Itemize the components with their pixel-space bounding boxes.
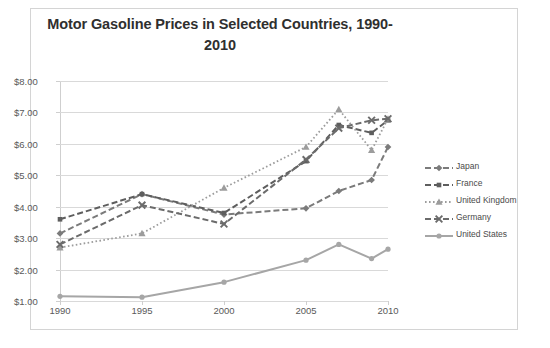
legend-item-france[interactable]: France <box>424 174 516 191</box>
x-tick-label: 2010 <box>377 305 398 316</box>
legend-item-united-kingdom[interactable]: United Kingdom <box>424 191 516 208</box>
gridline <box>60 238 388 239</box>
x-tick-label: 1990 <box>49 305 70 316</box>
y-tick-label: $7.00 <box>14 107 58 118</box>
legend-item-united-states[interactable]: United States <box>424 225 516 242</box>
gridline <box>60 207 388 208</box>
x-tick-mark <box>306 301 307 305</box>
x-tick-mark <box>142 301 143 305</box>
legend-label: United Kingdom <box>454 195 516 205</box>
legend-item-japan[interactable]: Japan <box>424 157 516 174</box>
triangle-marker-icon <box>424 194 454 206</box>
y-tick-label: $4.00 <box>14 201 58 212</box>
circle-marker-icon <box>424 228 454 240</box>
x-tick-label: 1995 <box>131 305 152 316</box>
plot-area <box>60 81 388 301</box>
legend-label: Japan <box>454 161 479 171</box>
gridline <box>60 175 388 176</box>
x-tick-label: 2000 <box>213 305 234 316</box>
chart-legend: JapanFranceUnited KingdomGermanyUnited S… <box>424 157 516 242</box>
diamond-marker-icon <box>424 160 454 172</box>
legend-label: Germany <box>454 212 491 222</box>
y-tick-label: $2.00 <box>14 264 58 275</box>
gridline <box>60 144 388 145</box>
legend-label: United States <box>454 229 507 239</box>
y-tick-label: $3.00 <box>14 233 58 244</box>
square-marker-icon <box>424 177 454 189</box>
y-tick-label: $8.00 <box>14 76 58 87</box>
x-marker-icon <box>424 211 454 223</box>
gridline <box>60 112 388 113</box>
legend-item-germany[interactable]: Germany <box>424 208 516 225</box>
legend-label: France <box>454 178 482 188</box>
y-tick-label: $6.00 <box>14 138 58 149</box>
gridline <box>60 81 388 82</box>
y-tick-label: $5.00 <box>14 170 58 181</box>
gridline <box>60 270 388 271</box>
x-tick-mark <box>388 301 389 305</box>
x-tick-label: 2005 <box>295 305 316 316</box>
x-tick-mark <box>60 301 61 305</box>
x-tick-mark <box>224 301 225 305</box>
chart-title: Motor Gasoline Prices in Selected Countr… <box>40 14 400 56</box>
